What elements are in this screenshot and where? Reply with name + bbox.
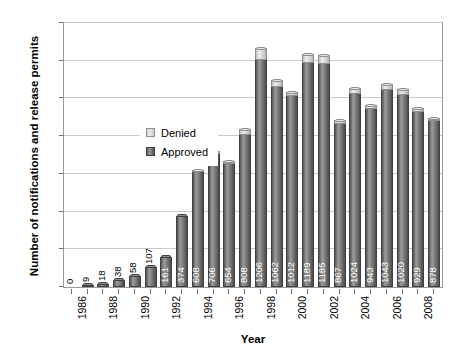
bar-segment-denied xyxy=(223,161,235,164)
bar-data-label: 161 xyxy=(159,267,171,283)
bar-data-label: 706 xyxy=(206,267,218,283)
bar-segment-approved xyxy=(82,285,94,287)
bar-column xyxy=(239,129,251,287)
bar-data-label: 58 xyxy=(127,263,139,274)
bar-data-label: 878 xyxy=(427,267,439,283)
bar-cap-denied xyxy=(429,117,439,120)
x-axis-tick-label: 2002 xyxy=(328,296,340,319)
bar-data-label: 1206 xyxy=(253,262,265,283)
x-axis-tick-mark xyxy=(370,289,371,294)
bar-segment-approved xyxy=(113,280,125,287)
bar-segment-approved xyxy=(286,96,298,287)
x-axis-tick-mark xyxy=(150,289,151,294)
bar-segment-approved xyxy=(271,87,283,287)
bar-data-label: 1185 xyxy=(316,263,328,283)
bar-data-label: 107 xyxy=(143,248,155,264)
x-axis-tick-label: 1986 xyxy=(76,296,88,319)
bar-column xyxy=(82,285,94,287)
y-axis-tick-mark xyxy=(59,97,63,98)
bar-segment-denied xyxy=(302,54,314,63)
x-axis-tick-mark xyxy=(323,289,324,294)
bar-cap-denied xyxy=(398,88,408,91)
bar-segment-denied xyxy=(365,105,377,109)
bar-segment-approved xyxy=(428,121,440,287)
x-axis-tick-label: 2004 xyxy=(359,296,371,319)
x-axis-tick-mark xyxy=(354,289,355,294)
bar-data-label: 38 xyxy=(112,266,124,277)
bar-cap-denied xyxy=(240,128,250,131)
bar-segment-approved xyxy=(412,112,424,287)
bar-segment-approved xyxy=(381,90,393,287)
x-axis-tick-label: 2000 xyxy=(296,296,308,319)
y-axis-tick-mark xyxy=(59,211,63,212)
bar-column xyxy=(97,284,109,287)
legend-label-denied: Denied xyxy=(161,127,196,139)
x-axis-tick-mark xyxy=(433,289,434,294)
bar-data-label: 929 xyxy=(411,267,423,283)
legend-item-approved: Approved xyxy=(146,142,208,161)
bar-data-label: 1043 xyxy=(379,262,391,283)
x-axis-tick-mark xyxy=(402,289,403,294)
bar-chart: Number of notifications and release perm… xyxy=(0,0,458,351)
bar-segment-denied xyxy=(381,84,393,91)
x-axis-tick-label: 1994 xyxy=(202,296,214,319)
y-axis-tick-mark xyxy=(59,248,63,249)
x-axis-tick-mark xyxy=(417,289,418,294)
bar-segment-denied xyxy=(255,48,267,59)
bar-data-label: 1189 xyxy=(301,263,313,283)
bar-column xyxy=(286,92,298,287)
bar-segment-denied xyxy=(286,92,298,96)
bar-data-label: 18 xyxy=(96,270,108,281)
bar-segment-denied xyxy=(192,170,204,172)
bar-segment-denied xyxy=(412,108,424,112)
bar-segment-approved xyxy=(239,135,251,287)
x-axis-tick-label: 1990 xyxy=(139,296,151,319)
bar-cap-approved xyxy=(98,282,108,285)
bar-data-label: 1020 xyxy=(395,262,407,283)
legend: Denied Approved xyxy=(140,119,218,166)
bar-data-label: 1012 xyxy=(285,262,297,283)
bar-data-label: 1062 xyxy=(269,262,281,283)
x-axis-tick-mark xyxy=(165,289,166,294)
bar-column xyxy=(365,105,377,287)
bar-segment-approved xyxy=(129,276,141,287)
bar-column xyxy=(349,88,361,288)
legend-item-denied: Denied xyxy=(146,123,208,142)
bar-segment-denied xyxy=(239,129,251,135)
bar-segment-approved xyxy=(318,64,330,287)
x-axis-tick-label: 1998 xyxy=(265,296,277,319)
bar-column xyxy=(113,280,125,287)
bar-cap-approved xyxy=(130,274,140,277)
bar-cap-denied xyxy=(366,104,376,107)
bar-column xyxy=(302,54,314,287)
bar-column xyxy=(145,267,157,287)
x-axis-tick-mark xyxy=(213,289,214,294)
bar-cap-denied xyxy=(272,79,282,82)
bar-cap-denied xyxy=(335,119,345,122)
bar-cap-approved xyxy=(146,265,156,268)
bar-cap-denied xyxy=(224,160,234,163)
bar-column xyxy=(412,108,424,287)
bar-segment-approved xyxy=(302,63,314,287)
x-axis-tick-mark xyxy=(71,289,72,294)
x-axis-tick-mark xyxy=(87,289,88,294)
legend-swatch-approved-icon xyxy=(146,147,155,156)
bar-segment-denied xyxy=(271,80,283,87)
bar-segment-denied xyxy=(397,89,409,94)
bar-segment-approved xyxy=(365,109,377,287)
bar-segment-approved xyxy=(97,284,109,287)
bar-segment-denied xyxy=(428,118,440,121)
y-axis-tick-mark xyxy=(59,60,63,61)
bar-segment-denied xyxy=(349,88,361,94)
bar-column xyxy=(381,84,393,287)
x-axis-tick-label: 1988 xyxy=(107,296,119,319)
bar-cap-approved xyxy=(161,255,171,258)
bar-column xyxy=(129,276,141,287)
y-axis-tick-mark xyxy=(59,22,63,23)
bar-column xyxy=(334,120,346,287)
x-axis-title: Year xyxy=(63,333,443,345)
bar-data-label: 867 xyxy=(332,267,344,283)
bar-data-label: 654 xyxy=(222,267,234,283)
x-axis-tick-mark xyxy=(291,289,292,294)
legend-label-approved: Approved xyxy=(161,146,208,158)
